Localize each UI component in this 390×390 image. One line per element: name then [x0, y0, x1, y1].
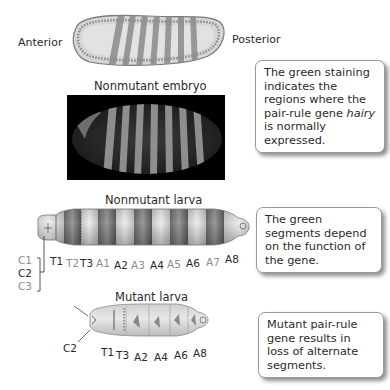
- segment-label-t2: T2: [66, 257, 79, 269]
- segment-label-a4: A4: [150, 259, 164, 271]
- mutant-larva-illustration: [86, 302, 212, 338]
- callout-green-segments: The green segments depend on the functio…: [256, 207, 382, 273]
- mutant-label-a6: A6: [174, 349, 188, 361]
- segment-label-c3: C3: [18, 280, 32, 292]
- c2-pointer-lines: [74, 306, 100, 344]
- head-bracket: [32, 236, 48, 298]
- segment-label-t1: T1: [50, 255, 63, 267]
- schematic-embryo-illustration: [68, 10, 228, 70]
- gene-name-hairy: hairy: [347, 107, 376, 120]
- segment-label-c1: C1: [18, 254, 32, 266]
- mutant-label-t3: T3: [116, 349, 129, 361]
- anterior-label: Anterior: [18, 36, 62, 49]
- segment-label-a2: A2: [114, 259, 128, 271]
- segment-label-t3: T3: [80, 257, 93, 269]
- mutant-label-c2: C2: [63, 342, 77, 354]
- segment-label-a8: A8: [225, 253, 239, 265]
- mutant-label-t1: T1: [101, 346, 114, 358]
- callout-staining-text-after: is normally expressed.: [264, 120, 326, 147]
- nonmutant-embryo-title: Nonmutant embryo: [94, 79, 207, 93]
- nonmutant-larva-title: Nonmutant larva: [105, 193, 202, 207]
- callout-staining: The green staining indicates the regions…: [255, 60, 385, 153]
- segment-label-a3: A3: [131, 259, 145, 271]
- segment-label-c2: C2: [18, 267, 32, 279]
- segment-label-a1: A1: [96, 257, 110, 269]
- mutant-label-a2: A2: [134, 351, 148, 363]
- mutant-label-a4: A4: [154, 351, 168, 363]
- mutant-label-a8: A8: [193, 347, 207, 359]
- nonmutant-embryo-photo: [67, 95, 225, 180]
- posterior-label: Posterior: [232, 33, 281, 46]
- segment-label-a5: A5: [167, 258, 181, 270]
- callout-mutant: Mutant pair-rule gene results in loss of…: [258, 312, 384, 378]
- segment-label-a7: A7: [206, 256, 220, 268]
- nonmutant-larva-illustration: [34, 206, 254, 248]
- segment-label-a6: A6: [186, 257, 200, 269]
